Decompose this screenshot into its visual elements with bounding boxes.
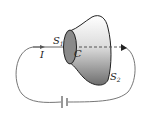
label-s2: S2 — [110, 71, 121, 83]
wire-left — [16, 47, 61, 102]
arrow-right-icon — [121, 44, 127, 51]
label-s1: S1 — [53, 35, 64, 47]
label-c: C — [74, 48, 82, 59]
label-i: I — [39, 49, 45, 60]
ampere-surfaces-diagram: S1 C I S2 — [0, 0, 146, 118]
battery-icon — [62, 96, 67, 108]
